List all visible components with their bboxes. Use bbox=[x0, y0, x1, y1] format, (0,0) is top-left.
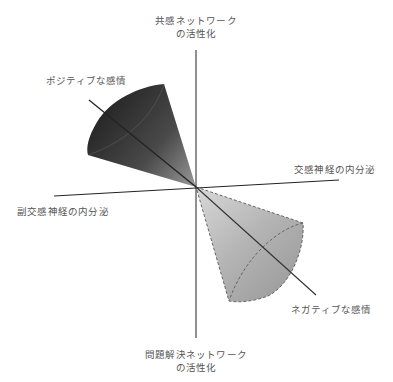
positive-emotion-cone bbox=[87, 84, 196, 187]
top-axis-label-line1: 共感ネットワーク bbox=[146, 14, 246, 27]
bottom-axis-label-line2: の活性化 bbox=[136, 361, 256, 374]
top-axis-label: 共感ネットワーク の活性化 bbox=[146, 14, 246, 40]
right-axis-label: 交感神経の内分泌 bbox=[294, 163, 376, 176]
negative-emotion-cone bbox=[196, 187, 303, 302]
left-axis-label: 副交感神経の内分泌 bbox=[17, 205, 109, 218]
bottom-axis-label: 問題解決ネットワーク の活性化 bbox=[136, 348, 256, 374]
bottom-axis-label-line1: 問題解決ネットワーク bbox=[136, 348, 256, 361]
diagram-canvas bbox=[0, 0, 393, 382]
top-axis-label-line2: の活性化 bbox=[146, 27, 246, 40]
positive-emotion-label: ポジティブな感情 bbox=[46, 74, 127, 87]
negative-emotion-label: ネガティブな感情 bbox=[291, 303, 372, 316]
